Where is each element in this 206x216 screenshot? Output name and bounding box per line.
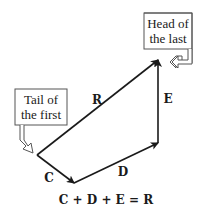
label-c: C: [44, 171, 54, 185]
tail-callout-line2: the first: [21, 107, 61, 122]
callout-arrow-down-right-icon: [20, 125, 33, 153]
tail-callout-line1: Tail of: [24, 92, 59, 107]
label-e: E: [163, 92, 172, 106]
vector-d: [74, 143, 158, 183]
label-d: D: [118, 165, 128, 179]
vector-c: [37, 155, 74, 183]
vector-addition-diagram: Head of the last Tail of the first R E C…: [0, 0, 206, 216]
equation: C + D + E = R: [59, 193, 154, 207]
label-r: R: [92, 93, 103, 107]
tail-of-first-callout: Tail of the first: [15, 89, 67, 153]
head-of-last-callout: Head of the last: [144, 13, 192, 68]
head-callout-line1: Head of: [147, 16, 189, 31]
head-callout-line2: the last: [149, 31, 187, 46]
